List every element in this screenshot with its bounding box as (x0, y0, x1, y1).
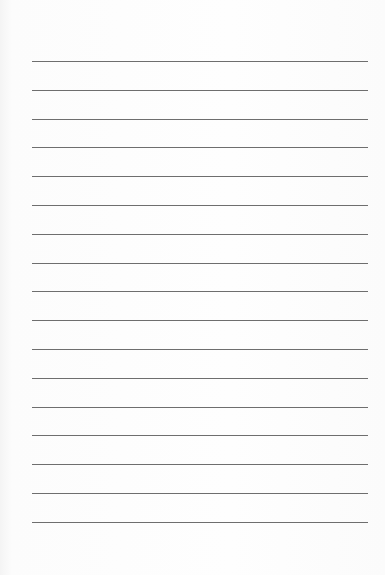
ruled-line (32, 407, 368, 408)
ruled-line (32, 61, 368, 62)
ruled-line (32, 291, 368, 292)
ruled-line (32, 147, 368, 148)
ruled-line (32, 205, 368, 206)
ruled-line (32, 234, 368, 235)
ruled-line (32, 90, 368, 91)
ruled-line (32, 320, 368, 321)
ruled-line (32, 119, 368, 120)
ruled-line (32, 263, 368, 264)
ruled-line (32, 349, 368, 350)
ruled-line (32, 493, 368, 494)
ruled-line (32, 176, 368, 177)
ruled-line (32, 435, 368, 436)
lined-paper (0, 0, 385, 575)
ruled-line (32, 522, 368, 523)
ruled-line (32, 464, 368, 465)
ruled-line (32, 378, 368, 379)
